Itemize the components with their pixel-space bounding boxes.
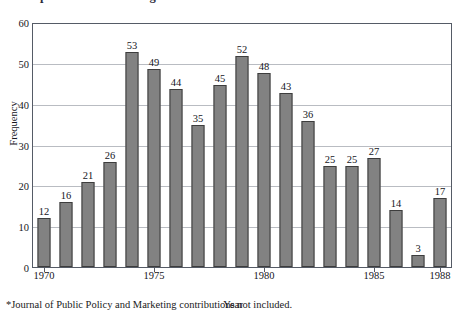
bar-slot: 14 <box>385 24 407 267</box>
bar-slot: 25 <box>341 24 363 267</box>
bar-slot: 44 <box>165 24 187 267</box>
bar-value-label: 27 <box>369 146 380 157</box>
bar <box>38 218 51 267</box>
footnote: *Journal of Public Policy and Marketing … <box>6 299 292 310</box>
bar-value-label: 25 <box>347 154 358 165</box>
bar-value-label: 53 <box>127 40 138 51</box>
bar-value-label: 26 <box>105 150 116 161</box>
bar <box>126 52 139 267</box>
bar-slot: 35 <box>187 24 209 267</box>
bar <box>368 158 381 267</box>
bar-value-label: 44 <box>171 77 182 88</box>
bar <box>280 93 293 267</box>
bar-slot: 25 <box>319 24 341 267</box>
bar <box>104 162 117 267</box>
bar-slot: 45 <box>209 24 231 267</box>
bar-slot: 17 <box>429 24 451 267</box>
y-axis-tick-labels: 0102030405060 <box>0 23 29 268</box>
bar <box>412 255 425 267</box>
bar-chart: Frequency 0102030405060 1216212653494435… <box>0 14 466 282</box>
y-axis-tick-label: 30 <box>3 140 29 151</box>
y-axis-tick-label: 10 <box>3 222 29 233</box>
y-axis-tick-label: 50 <box>3 58 29 69</box>
bar-slot: 52 <box>231 24 253 267</box>
y-axis-tick-label: 60 <box>3 18 29 29</box>
y-axis-tick-label: 40 <box>3 99 29 110</box>
bar-slot: 48 <box>253 24 275 267</box>
bar <box>390 210 403 267</box>
bar-value-label: 52 <box>237 44 248 55</box>
bar-slot: 36 <box>297 24 319 267</box>
bar-value-label: 17 <box>435 186 446 197</box>
x-axis-tick-label: 1980 <box>244 270 284 281</box>
bar-value-label: 35 <box>193 113 204 124</box>
x-axis-tick-label: 1988 <box>420 270 460 281</box>
bar <box>214 85 227 267</box>
bar-value-label: 14 <box>391 198 402 209</box>
bar <box>60 202 73 267</box>
bar-slot: 12 <box>33 24 55 267</box>
bar <box>82 182 95 267</box>
bar <box>346 166 359 267</box>
bar <box>170 89 183 267</box>
bar <box>302 121 315 267</box>
figure-title: Comparison of Marketing Journals <box>14 0 434 3</box>
bars-group: 1216212653494435455248433625252714317 <box>33 24 451 267</box>
bar-slot: 21 <box>77 24 99 267</box>
bar-slot: 26 <box>99 24 121 267</box>
bar <box>192 125 205 267</box>
bar-value-label: 12 <box>39 206 50 217</box>
bar-slot: 43 <box>275 24 297 267</box>
y-axis-tick-label: 20 <box>3 181 29 192</box>
bar <box>236 56 249 267</box>
bar-value-label: 48 <box>259 61 270 72</box>
bar-value-label: 3 <box>415 243 420 254</box>
bar <box>258 73 271 267</box>
bar-value-label: 36 <box>303 109 314 120</box>
bar <box>148 69 161 267</box>
bar-slot: 16 <box>55 24 77 267</box>
bar <box>434 198 447 267</box>
bar <box>324 166 337 267</box>
bar-value-label: 49 <box>149 57 160 68</box>
bar-value-label: 16 <box>61 190 72 201</box>
bar-value-label: 21 <box>83 170 94 181</box>
bar-slot: 3 <box>407 24 429 267</box>
bar-slot: 27 <box>363 24 385 267</box>
bar-value-label: 25 <box>325 154 336 165</box>
x-axis-tick-label: 1970 <box>24 270 64 281</box>
x-axis-tick-label: 1975 <box>134 270 174 281</box>
bar-slot: 53 <box>121 24 143 267</box>
bar-slot: 49 <box>143 24 165 267</box>
x-axis-tick-label: 1985 <box>354 270 394 281</box>
bar-value-label: 43 <box>281 81 292 92</box>
bar-value-label: 45 <box>215 73 226 84</box>
x-axis-tick-labels: 19701975198019851988 <box>33 270 451 284</box>
